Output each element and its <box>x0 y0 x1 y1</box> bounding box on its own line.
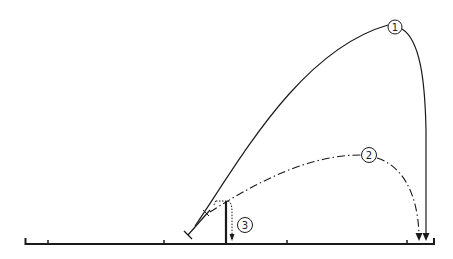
label-1: 1 <box>392 22 398 33</box>
trajectory-diagram: 1 2 3 <box>0 0 453 259</box>
trajectory-1: 1 <box>195 20 430 241</box>
arrow-down-icon <box>416 233 423 241</box>
label-3: 3 <box>242 220 248 231</box>
arrow-down-icon <box>423 233 430 241</box>
launcher <box>184 200 226 244</box>
arrow-down-icon <box>230 234 235 241</box>
label-2: 2 <box>366 150 372 161</box>
trajectory-3: 3 <box>216 201 253 241</box>
ground-line <box>25 238 435 245</box>
